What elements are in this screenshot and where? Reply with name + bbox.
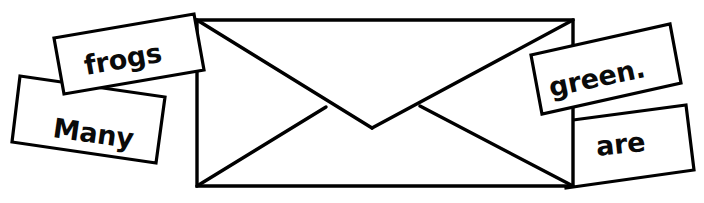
envelope-body <box>197 20 573 186</box>
envelope <box>197 20 573 186</box>
word-card-envelope-scene: Many are frogs green. <box>0 0 704 203</box>
word-card-frogs[interactable]: frogs <box>54 14 204 94</box>
scene-canvas: Many are frogs green. <box>0 0 704 203</box>
word-card-are[interactable]: are <box>558 105 694 188</box>
word-card-are-label: are <box>594 126 646 162</box>
